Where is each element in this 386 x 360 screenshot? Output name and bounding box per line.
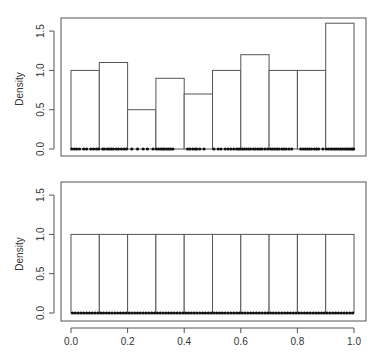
y-tick-label: 0.5 — [35, 266, 46, 280]
data-point — [127, 311, 130, 314]
data-point — [219, 147, 222, 150]
histogram-bar — [128, 234, 156, 313]
histogram-bar — [297, 234, 325, 313]
data-point — [289, 311, 292, 314]
data-point — [343, 311, 346, 314]
y-axis-label: Density — [14, 237, 25, 270]
data-point — [120, 147, 123, 150]
data-point — [85, 311, 88, 314]
data-point — [311, 311, 314, 314]
data-point — [263, 311, 266, 314]
data-point — [178, 311, 181, 314]
data-point — [119, 311, 122, 314]
y-tick-label: 0.5 — [35, 102, 46, 116]
data-point — [232, 311, 235, 314]
data-point — [82, 147, 85, 150]
data-point — [195, 311, 198, 314]
histogram-bar — [213, 234, 241, 313]
data-point — [147, 311, 150, 314]
data-point — [317, 311, 320, 314]
x-tick-label: 0.0 — [64, 336, 78, 347]
histogram-bar — [156, 234, 184, 313]
data-point — [153, 311, 156, 314]
top-histogram-panel: 0.00.51.01.5 Density — [14, 18, 366, 156]
data-point — [290, 147, 293, 150]
data-point — [190, 311, 193, 314]
data-point — [269, 311, 272, 314]
data-point — [212, 147, 215, 150]
data-point — [74, 311, 77, 314]
data-point — [92, 147, 95, 150]
data-point — [238, 311, 241, 314]
data-point — [144, 311, 147, 314]
y-tick-label: 0.0 — [35, 142, 46, 156]
data-point — [224, 311, 227, 314]
histogram-bar — [184, 234, 212, 313]
data-point — [235, 311, 238, 314]
data-point — [229, 311, 232, 314]
histogram-bar — [241, 234, 269, 313]
histogram-bar — [269, 70, 297, 149]
histogram-bar — [184, 94, 212, 149]
data-point — [198, 147, 201, 150]
data-point — [303, 311, 306, 314]
histogram-bar — [213, 70, 241, 149]
histogram-bar — [297, 70, 325, 149]
data-point — [85, 147, 88, 150]
y-tick-label: 1.5 — [35, 188, 46, 202]
data-point — [326, 311, 329, 314]
data-point — [286, 311, 289, 314]
data-point — [277, 147, 280, 150]
data-point — [340, 311, 343, 314]
histogram-bar — [241, 55, 269, 149]
data-point — [122, 311, 125, 314]
data-point — [71, 311, 74, 314]
data-point — [156, 311, 159, 314]
data-point — [294, 311, 297, 314]
figure: 0.00.51.01.5 Density 0.00.51.01.5 0.00.2… — [0, 0, 386, 360]
data-point — [171, 147, 174, 150]
histogram-bar — [71, 70, 99, 149]
data-point — [181, 311, 184, 314]
x-tick-label: 0.8 — [290, 336, 304, 347]
data-point — [130, 147, 133, 150]
data-point — [142, 147, 145, 150]
data-point — [275, 311, 278, 314]
data-point — [116, 311, 119, 314]
data-point — [258, 311, 261, 314]
x-tick-label: 0.2 — [121, 336, 135, 347]
histogram-bar — [128, 110, 156, 149]
data-point — [91, 311, 94, 314]
data-point — [164, 311, 167, 314]
data-point — [255, 311, 258, 314]
data-point — [218, 311, 221, 314]
data-point — [348, 311, 351, 314]
y-axis: 0.00.51.01.5 — [35, 188, 54, 320]
y-tick-label: 1.5 — [35, 24, 46, 38]
data-point — [229, 147, 232, 150]
data-point — [309, 311, 312, 314]
data-point — [193, 311, 196, 314]
data-point — [88, 311, 91, 314]
x-axis: 0.00.20.40.60.81.0 — [64, 328, 361, 347]
data-point — [75, 147, 78, 150]
data-point — [89, 147, 92, 150]
data-point — [297, 311, 300, 314]
data-point — [77, 311, 80, 314]
histogram-bar — [326, 234, 354, 313]
data-point — [152, 147, 155, 150]
data-point — [125, 311, 128, 314]
data-point — [217, 147, 220, 150]
data-point — [187, 311, 190, 314]
y-axis: 0.00.51.01.5 — [35, 24, 54, 156]
data-point — [272, 311, 275, 314]
data-point — [133, 311, 136, 314]
data-point — [227, 147, 230, 150]
data-point — [201, 311, 204, 314]
histogram-bar — [269, 234, 297, 313]
data-point — [287, 147, 290, 150]
data-point — [320, 311, 323, 314]
data-point — [198, 311, 201, 314]
data-point — [292, 311, 295, 314]
data-point — [176, 311, 179, 314]
